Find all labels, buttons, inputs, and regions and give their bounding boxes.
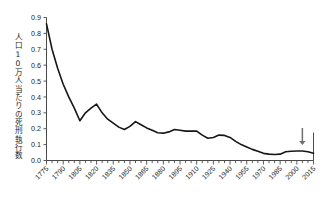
x-tick-label: 1850 xyxy=(117,165,133,181)
y-tick-label: 0.3 xyxy=(31,108,41,117)
x-tick-label: 1790 xyxy=(50,165,66,181)
x-tick-label: 1895 xyxy=(167,165,183,181)
line-chart-plot: 0.90.80.70.60.50.40.30.20.10.0 177517901… xyxy=(0,0,327,197)
x-tick-label: 1910 xyxy=(184,165,200,181)
x-tick-label: 1865 xyxy=(134,165,150,181)
annotation-arrow xyxy=(299,128,305,145)
x-axis-tick-labels: 1775179018051820183518501865188018951910… xyxy=(34,165,317,181)
y-tick-label: 0.5 xyxy=(31,77,41,86)
x-tick-label: 1970 xyxy=(251,165,267,181)
x-tick-label: 1985 xyxy=(267,165,283,181)
y-tick-label: 0.7 xyxy=(31,45,41,54)
x-tick-label: 1835 xyxy=(100,165,116,181)
x-tick-label: 2015 xyxy=(301,165,317,181)
y-tick-label: 0.1 xyxy=(31,140,41,149)
x-tick-label: 1925 xyxy=(201,165,217,181)
x-tick-label: 1940 xyxy=(217,165,233,181)
y-axis-tick-labels: 0.90.80.70.60.50.40.30.20.10.0 xyxy=(31,13,41,165)
x-tick-label: 2000 xyxy=(284,165,300,181)
y-tick-label: 0.4 xyxy=(31,93,41,102)
x-tick-label: 1775 xyxy=(34,165,50,181)
y-tick-label: 0.0 xyxy=(31,156,41,165)
data-series-line xyxy=(47,24,314,155)
y-tick-label: 0.2 xyxy=(31,124,41,133)
chart-container: 人口10万人当たりの死刑執行数 0.90.80.70.60.50.40.30.2… xyxy=(0,0,327,197)
x-tick-label: 1880 xyxy=(151,165,167,181)
x-tick-label: 1805 xyxy=(67,165,83,181)
arrow-head xyxy=(299,141,305,145)
x-tick-label: 1820 xyxy=(84,165,100,181)
x-tick-label: 1955 xyxy=(234,165,250,181)
y-tick-label: 0.9 xyxy=(31,13,41,22)
y-tick-label: 0.8 xyxy=(31,29,41,38)
x-axis-tick-marks xyxy=(47,161,314,165)
y-tick-label: 0.6 xyxy=(31,61,41,70)
